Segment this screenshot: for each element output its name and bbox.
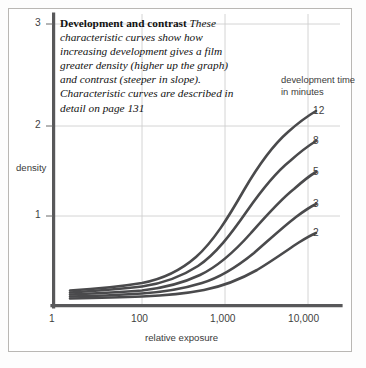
curve-label-3: 3: [313, 198, 319, 209]
curve-label-2: 2: [313, 227, 319, 238]
caption-title: Development and contrast: [60, 17, 187, 29]
x-tick-label-1000: 1,000: [210, 313, 236, 324]
curve-label-12: 12: [313, 105, 324, 116]
caption-body: These characteristic curves show how inc…: [60, 17, 233, 114]
legend-title: development time in minutes: [281, 74, 361, 97]
curve-label-8: 8: [313, 135, 319, 146]
characteristic-curves: [70, 111, 316, 299]
x-tick-label-1: 1: [49, 313, 55, 324]
x-tick-label-10000: 10,000: [288, 313, 319, 324]
x-axis-title: relative exposure: [145, 332, 218, 343]
curve-label-5: 5: [313, 166, 319, 177]
curve-3min: [70, 204, 316, 297]
y-tick-label-2: 2: [35, 119, 41, 130]
y-tick-label-3: 3: [35, 17, 41, 28]
y-axis-ticks: [46, 24, 53, 216]
y-tick-label-1: 1: [35, 209, 41, 220]
curve-12min: [70, 111, 316, 291]
figure-caption: Development and contrast These character…: [60, 16, 245, 115]
y-axis-title: density: [16, 162, 46, 173]
curve-5min: [70, 172, 316, 295]
x-tick-label-100: 100: [131, 313, 148, 324]
curve-8min: [70, 141, 316, 293]
figure-root: Development and contrast These character…: [0, 0, 366, 368]
